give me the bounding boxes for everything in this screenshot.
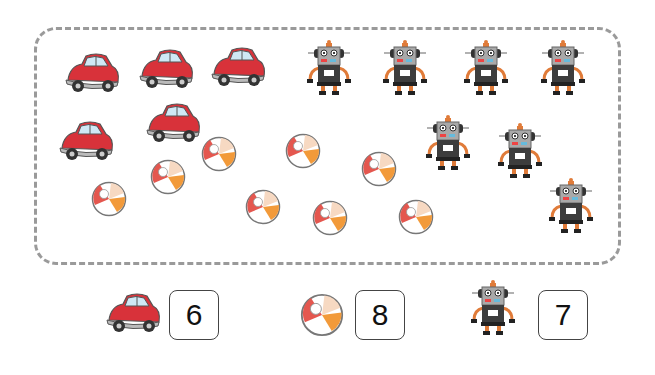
robot-icon	[497, 121, 543, 183]
robot-icon	[540, 38, 586, 100]
robot-icon	[463, 38, 509, 100]
beach-ball-icon	[361, 151, 397, 191]
beach-ball-icon	[91, 181, 127, 221]
robot-icon	[425, 113, 471, 175]
robot-icon	[382, 38, 428, 100]
car-icon	[143, 100, 203, 150]
legend-car-icon	[103, 290, 163, 340]
legend-beach-ball-icon	[300, 293, 344, 341]
robot-icon	[548, 176, 594, 238]
beach-ball-icon	[150, 159, 186, 199]
legend-robot-icon	[470, 278, 516, 340]
car-icon	[136, 46, 196, 96]
beach-ball-icon	[245, 189, 281, 229]
ball-count: 8	[372, 298, 389, 332]
car-icon	[62, 50, 122, 100]
car-count: 6	[186, 298, 203, 332]
beach-ball-icon	[285, 133, 321, 173]
car-icon	[56, 118, 116, 168]
robot-count: 7	[555, 298, 572, 332]
ball-count-box[interactable]: 8	[355, 290, 405, 340]
car-icon	[208, 44, 268, 94]
robot-count-box[interactable]: 7	[538, 290, 588, 340]
beach-ball-icon	[201, 136, 237, 176]
beach-ball-icon	[398, 199, 434, 239]
robot-icon	[306, 38, 352, 100]
beach-ball-icon	[312, 200, 348, 240]
car-count-box[interactable]: 6	[169, 290, 219, 340]
